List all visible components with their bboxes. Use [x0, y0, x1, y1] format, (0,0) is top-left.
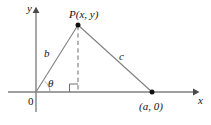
point-a0-label: (a, 0) [139, 101, 163, 112]
x-axis-label: x [198, 95, 203, 106]
side-c-label: c [119, 51, 124, 62]
point-P-dot [76, 23, 81, 28]
origin-label: 0 [28, 96, 34, 107]
segment-c [78, 25, 152, 92]
theta-angle-label: θ [48, 78, 53, 89]
right-angle-marker [70, 84, 79, 92]
point-P-label: P(x, y) [69, 9, 98, 20]
side-b-label: b [44, 48, 50, 59]
geometry-figure: y x P(x, y) (a, 0) b c θ 0 [0, 0, 211, 125]
segment-b [36, 25, 78, 92]
y-axis-label: y [27, 3, 32, 14]
point-a0-dot [150, 90, 155, 95]
y-axis-arrowhead [33, 7, 40, 13]
